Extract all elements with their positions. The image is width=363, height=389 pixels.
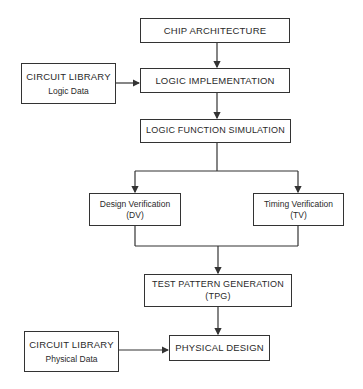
- node-label: CHIP ARCHITECTURE: [164, 25, 266, 37]
- node-subtitle: (DV): [126, 210, 143, 221]
- node-timing-verification: Timing Verification (TV): [253, 193, 344, 226]
- node-subtitle: Logic Data: [48, 86, 89, 97]
- node-chip-architecture: CHIP ARCHITECTURE: [140, 18, 290, 43]
- node-test-pattern-generation: TEST PATTERN GENERATION (TPG): [144, 274, 292, 307]
- node-logic-implementation: LOGIC IMPLEMENTATION: [140, 68, 290, 93]
- node-label: LOGIC IMPLEMENTATION: [155, 75, 274, 87]
- node-subtitle: Physical Data: [46, 354, 98, 365]
- node-physical-design: PHYSICAL DESIGN: [169, 335, 270, 361]
- node-logic-function-simulation: LOGIC FUNCTION SIMULATION: [140, 119, 291, 143]
- node-subtitle: (TPG): [205, 291, 231, 302]
- node-title: Design Verification: [100, 199, 170, 210]
- node-title: TEST PATTERN GENERATION: [152, 279, 284, 290]
- node-subtitle: (TV): [290, 210, 307, 221]
- node-title: Timing Verification: [264, 199, 333, 210]
- node-label: PHYSICAL DESIGN: [175, 342, 264, 354]
- node-design-verification: Design Verification (DV): [89, 193, 181, 226]
- node-label: LOGIC FUNCTION SIMULATION: [146, 125, 285, 136]
- node-title: CIRCUIT LIBRARY: [26, 71, 110, 83]
- node-circuit-library-logic: CIRCUIT LIBRARY Logic Data: [21, 63, 116, 104]
- node-circuit-library-physical: CIRCUIT LIBRARY Physical Data: [24, 331, 119, 372]
- node-title: CIRCUIT LIBRARY: [29, 339, 113, 351]
